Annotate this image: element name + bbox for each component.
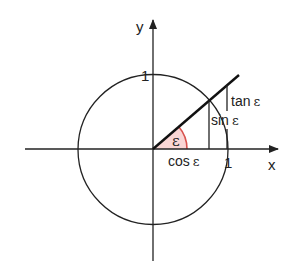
unit-circle-diagram: y x 1 1 ε tanε sinε cosε: [0, 0, 295, 277]
x-tick-1: 1: [224, 154, 232, 171]
x-axis-label: x: [268, 156, 276, 173]
angle-label: ε: [172, 132, 180, 150]
y-axis-label: y: [136, 18, 144, 35]
cos-label: cosε: [168, 153, 200, 169]
tan-label: tanε: [231, 93, 260, 109]
sin-label: sinε: [211, 112, 239, 128]
y-tick-1: 1: [141, 67, 149, 84]
